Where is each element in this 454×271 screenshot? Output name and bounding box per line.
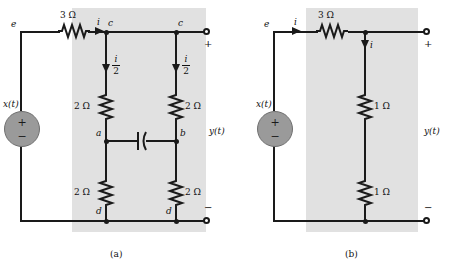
wire-left-upper-b	[273, 31, 275, 111]
resistor-1ohm-upper-label: 1 Ω	[374, 102, 390, 111]
source-plus-a: +	[5, 117, 39, 128]
node-label-c-right: c	[178, 19, 183, 28]
node-label-d-right: d	[166, 207, 172, 216]
source-minus-a: −	[5, 131, 39, 142]
resistor-2ohm-top-left-symbol	[98, 91, 115, 123]
wire-left-upper-a	[20, 31, 22, 111]
caption-b: (b)	[345, 250, 358, 259]
output-label-yt-b: y(t)	[424, 127, 440, 136]
wire-branch-left-top-a	[105, 31, 107, 91]
resistor-2ohm-top-right-label: 2 Ω	[185, 102, 201, 111]
wire-branch-b-mid	[364, 123, 366, 177]
i-over-2-right-numerator: i	[180, 55, 192, 64]
junction-dot-c-right	[174, 30, 179, 35]
resistor-1ohm-lower-symbol	[357, 177, 374, 209]
wire-capacitor-right-lead	[146, 140, 177, 142]
i-over-2-left-numerator: i	[110, 55, 122, 64]
resistor-2ohm-bot-left-label: 2 Ω	[74, 188, 90, 197]
output-terminal-negative-a	[203, 217, 210, 224]
output-label-yt-a: y(t)	[209, 127, 225, 136]
node-label-e-b: e	[264, 20, 269, 29]
wire-left-lower-b	[273, 145, 275, 222]
node-label-d-left: d	[96, 207, 102, 216]
voltage-source-a: + −	[4, 111, 40, 147]
source-plus-b: +	[258, 117, 292, 128]
resistor-2ohm-bot-right-label: 2 Ω	[185, 188, 201, 197]
output-minus-label-b: −	[424, 203, 432, 213]
junction-dot-b-bottom	[363, 219, 368, 224]
wire-branch-right-lower-a	[175, 140, 177, 177]
caption-a: (a)	[110, 250, 122, 259]
branch-current-label-i-b: i	[370, 41, 373, 50]
current-label-i-b: i	[294, 18, 297, 27]
resistor-2ohm-bot-left-symbol	[98, 177, 115, 209]
node-label-c-left: c	[108, 19, 113, 28]
wire-branch-right-top-a	[175, 31, 177, 91]
resistor-3ohm-a-label: 3 Ω	[60, 11, 76, 20]
node-label-e-a: e	[11, 20, 16, 29]
wire-capacitor-left-lead	[105, 140, 137, 142]
output-minus-label-a: −	[204, 203, 212, 213]
wire-left-lower-a	[20, 145, 22, 222]
figure-circuit-equivalence: 3 Ω i e + − x(t) 2 Ω i	[0, 0, 454, 271]
shaded-network-region-a	[72, 8, 206, 232]
junction-dot-b-top	[363, 30, 368, 35]
resistor-2ohm-top-left-label: 2 Ω	[74, 102, 90, 111]
resistor-3ohm-a-symbol	[58, 23, 90, 40]
source-label-xt-a: x(t)	[3, 100, 19, 109]
output-plus-label-b: +	[424, 39, 432, 49]
current-arrow-i-b	[292, 26, 306, 37]
output-plus-label-a: +	[204, 39, 212, 49]
i-over-2-left-denominator: 2	[110, 67, 122, 76]
i-over-2-right-denominator: 2	[180, 67, 192, 76]
resistor-2ohm-top-right-symbol	[168, 91, 185, 123]
resistor-3ohm-b-symbol	[316, 23, 348, 40]
wire-bottom-rail-b	[273, 220, 426, 222]
node-label-b: b	[180, 129, 186, 138]
resistor-1ohm-lower-label: 1 Ω	[374, 188, 390, 197]
junction-dot-a	[104, 139, 109, 144]
resistor-2ohm-bot-right-symbol	[168, 177, 185, 209]
current-label-i-over-2-right: i 2	[180, 55, 192, 76]
source-minus-b: −	[258, 131, 292, 142]
junction-dot-d-left	[104, 219, 109, 224]
node-label-a: a	[96, 129, 101, 138]
output-terminal-negative-b	[423, 217, 430, 224]
source-label-xt-b: x(t)	[256, 100, 272, 109]
wire-top-rail-a	[20, 31, 60, 33]
current-label-i-over-2-left: i 2	[110, 55, 122, 76]
resistor-1ohm-upper-symbol	[357, 91, 374, 123]
wire-top-rail-b-right	[348, 31, 426, 33]
current-label-i-a: i	[97, 18, 100, 27]
voltage-source-b: + −	[257, 111, 293, 147]
resistor-3ohm-b-label: 3 Ω	[318, 11, 334, 20]
junction-dot-d-right	[174, 219, 179, 224]
junction-dot-b	[174, 139, 179, 144]
output-terminal-positive-b	[423, 28, 430, 35]
junction-dot-c-left	[104, 30, 109, 35]
wire-branch-left-lower-a	[105, 140, 107, 177]
output-terminal-positive-a	[203, 28, 210, 35]
